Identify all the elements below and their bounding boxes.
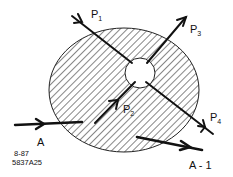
a1-label: A - 1 xyxy=(189,159,212,171)
figure-date: 8-87 xyxy=(14,149,29,158)
interaction-point xyxy=(125,58,155,88)
p1-label: P1 xyxy=(91,8,102,22)
p4-label: P4 xyxy=(210,111,221,125)
interaction-region xyxy=(49,28,199,152)
figure-code: 5837A25 xyxy=(12,158,42,167)
scattering-diagram: P1 P3 P2 P4 A A - 1 8-87 5837A25 xyxy=(0,0,233,177)
a-label: A xyxy=(37,136,45,148)
p3-label: P3 xyxy=(190,23,201,37)
